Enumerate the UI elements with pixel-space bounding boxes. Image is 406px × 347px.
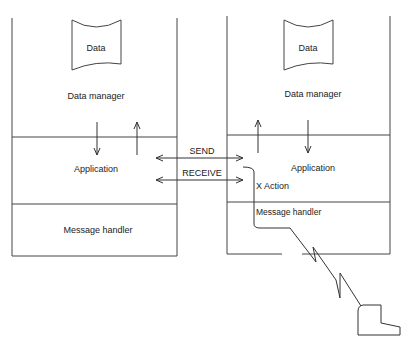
left-message-handler-label: Message handler xyxy=(63,225,132,235)
right-data-label: Data xyxy=(298,43,317,53)
right-message-handler-label: Message handler xyxy=(256,207,321,217)
x-action-label: X Action xyxy=(256,181,289,191)
left-data-label: Data xyxy=(86,43,105,53)
right-data-manager-label: Data manager xyxy=(284,89,341,99)
left-data-manager-label: Data manager xyxy=(67,91,124,101)
send-label: SEND xyxy=(189,146,214,156)
right-application-label: Application xyxy=(291,163,335,173)
receive-label: RECEIVE xyxy=(182,168,222,178)
left-node xyxy=(12,18,177,256)
terminal-icon xyxy=(358,305,400,335)
left-application-label: Application xyxy=(74,164,118,174)
